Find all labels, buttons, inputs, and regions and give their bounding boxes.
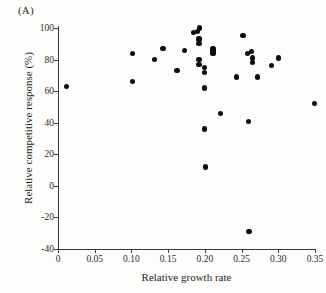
y-tick-mark: [54, 123, 58, 124]
x-tick-mark: [58, 249, 59, 253]
scatter-point: [182, 48, 187, 53]
scatter-point: [255, 74, 260, 79]
x-axis-line: [57, 249, 316, 250]
y-tick-label: 60: [45, 86, 55, 96]
x-axis-label: Relative growth rate: [58, 271, 315, 283]
scatter-point: [202, 126, 207, 131]
y-tick-label: 0: [49, 181, 54, 191]
x-tick-label: 0.25: [233, 254, 250, 264]
scatter-point: [130, 79, 135, 84]
x-tick-mark: [131, 249, 132, 253]
scatter-point: [249, 49, 254, 54]
x-tick-label: 0.20: [197, 254, 214, 264]
scatter-point: [234, 74, 239, 79]
y-tick-mark: [54, 154, 58, 155]
scatter-point: [218, 111, 223, 116]
x-tick-mark: [95, 249, 96, 253]
y-tick-label: 80: [45, 55, 55, 65]
y-tick-label: 20: [45, 149, 55, 159]
panel-label: (A): [18, 4, 34, 16]
scatter-point: [210, 51, 215, 56]
y-tick-mark: [54, 28, 58, 29]
y-tick-mark: [54, 91, 58, 92]
scatter-point: [312, 101, 317, 106]
scatter-point: [276, 55, 281, 60]
y-tick-label: 40: [45, 118, 55, 128]
y-tick-label: -40: [41, 244, 54, 254]
x-tick-mark: [168, 249, 169, 253]
scatter-point: [64, 84, 69, 89]
x-tick-label: 0.15: [160, 254, 177, 264]
y-tick-label: 100: [40, 23, 54, 33]
x-tick-label: 0.05: [86, 254, 103, 264]
scatter-point: [250, 60, 255, 65]
y-tick-mark: [54, 60, 58, 61]
scatter-point: [160, 46, 165, 51]
scatter-point: [174, 68, 179, 73]
scatter-point: [246, 229, 251, 234]
scatter-point: [202, 70, 207, 75]
x-tick-label: 0.10: [123, 254, 140, 264]
scatter-point: [197, 25, 202, 30]
scatter-point: [203, 164, 208, 169]
x-tick-mark: [205, 249, 206, 253]
x-tick-label: 0.30: [270, 254, 287, 264]
x-tick-mark: [315, 249, 316, 253]
x-tick-mark: [242, 249, 243, 253]
scatter-point: [246, 119, 251, 124]
x-tick-mark: [278, 249, 279, 253]
x-tick-label: 0: [56, 254, 61, 264]
scatter-point: [152, 57, 157, 62]
scatter-point: [196, 41, 201, 46]
scatter-point: [196, 62, 201, 67]
figure-panel-a: (A) 100806040200-20-40 00.050.100.150.20…: [0, 0, 326, 293]
y-axis-label: Relative competitive response (%): [22, 28, 34, 228]
x-tick-label: 0.35: [307, 254, 324, 264]
scatter-point: [130, 51, 135, 56]
y-tick-mark: [54, 217, 58, 218]
scatter-point: [240, 33, 245, 38]
y-tick-mark: [54, 186, 58, 187]
y-tick-label: -20: [41, 212, 54, 222]
plot-area: 100806040200-20-40 00.050.100.150.200.25…: [58, 28, 315, 249]
scatter-point: [202, 85, 207, 90]
scatter-point: [269, 63, 274, 68]
